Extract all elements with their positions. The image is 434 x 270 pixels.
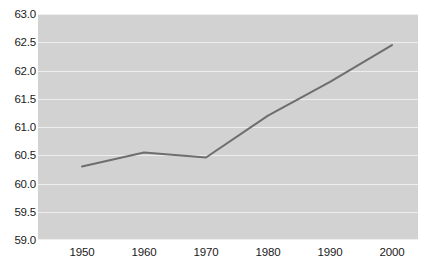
line-chart: 63.0 62.5 62.0 61.5 61.0 60.5 60.0 59.5 … <box>0 0 434 270</box>
plot-area <box>38 14 418 240</box>
y-tick-label: 59.5 <box>2 206 36 218</box>
data-series-line <box>38 14 418 240</box>
x-tick-label: 2000 <box>362 246 422 258</box>
x-tick-label: 1990 <box>300 246 360 258</box>
y-tick-label: 63.0 <box>2 8 36 20</box>
x-tick-label: 1960 <box>114 246 174 258</box>
y-tick-label: 59.0 <box>2 234 36 246</box>
y-tick-label: 61.0 <box>2 121 36 133</box>
y-tick-label: 62.5 <box>2 36 36 48</box>
y-axis-tick-labels: 63.0 62.5 62.0 61.5 61.0 60.5 60.0 59.5 … <box>0 0 36 270</box>
y-tick-label: 61.5 <box>2 93 36 105</box>
x-tick-label: 1980 <box>238 246 298 258</box>
y-tick-label: 60.5 <box>2 149 36 161</box>
y-tick-label: 62.0 <box>2 65 36 77</box>
y-tick-label: 60.0 <box>2 178 36 190</box>
x-tick-label: 1970 <box>176 246 236 258</box>
x-tick-label: 1950 <box>52 246 112 258</box>
